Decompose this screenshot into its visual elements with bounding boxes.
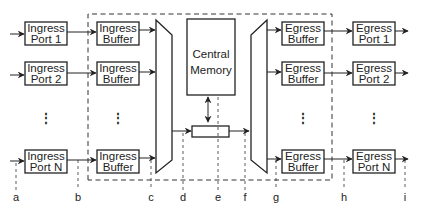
tap-label-g: g [273, 191, 279, 203]
ingress-port-1: Ingress Port 1 [10, 22, 67, 45]
ingress-port-n-label-bottom: Port N [30, 161, 63, 173]
ingress-multiplexer [156, 20, 172, 173]
egress-port-ellipsis: ⋮ [368, 111, 380, 125]
ingress-port-2-label-bottom: Port 2 [31, 73, 62, 85]
tap-label-a: a [13, 191, 20, 203]
egress-port-2-label-bottom: Port 2 [359, 73, 390, 85]
ingress-buffer-1-label-bottom: Buffer [103, 33, 134, 45]
ingress-buffer-2-label-bottom: Buffer [103, 73, 134, 85]
ingress-buffer-1: Ingress Buffer [97, 22, 139, 45]
ingress-port-ellipsis: ⋮ [40, 111, 52, 125]
egress-buffer-ellipsis: ⋮ [297, 111, 309, 125]
shared-memory-switch-diagram: Ingress Port 1 Ingress Port 2 ⋮ Ingress … [0, 0, 421, 215]
central-memory-label-top: Central [192, 48, 229, 60]
egress-port-2: Egress Port 2 [353, 62, 408, 85]
tap-label-i: i [404, 191, 406, 203]
egress-buffer-n: Egress Buffer [282, 150, 324, 173]
egress-buffer-1: Egress Buffer [282, 22, 324, 45]
ingress-port-2: Ingress Port 2 [10, 62, 67, 85]
tap-label-f: f [243, 191, 247, 203]
egress-buffer-2: Egress Buffer [282, 62, 324, 85]
tap-lines [16, 97, 405, 190]
egress-buffer-2-label-bottom: Buffer [288, 73, 319, 85]
ingress-port-1-label-bottom: Port 1 [31, 33, 62, 45]
egress-buffer-1-label-bottom: Buffer [288, 33, 319, 45]
egress-demultiplexer [251, 20, 267, 173]
tap-label-d: d [180, 191, 186, 203]
central-memory-label-bottom: Memory [190, 64, 232, 76]
memory-controller-register [192, 126, 229, 137]
ingress-buffer-ellipsis: ⋮ [112, 111, 124, 125]
ingress-buffer-n-label-bottom: Buffer [103, 161, 134, 173]
tap-label-b: b [75, 191, 81, 203]
tap-label-h: h [341, 191, 347, 203]
ingress-buffer-n: Ingress Buffer [97, 150, 139, 173]
ingress-buffer-2: Ingress Buffer [97, 62, 139, 85]
egress-port-n: Egress Port N [353, 150, 408, 173]
tap-label-e: e [215, 191, 221, 203]
central-memory: Central Memory [187, 19, 235, 95]
egress-buffer-n-label-bottom: Buffer [288, 161, 319, 173]
tap-label-c: c [148, 191, 154, 203]
egress-port-1: Egress Port 1 [353, 22, 408, 45]
egress-port-n-label-bottom: Port N [358, 161, 391, 173]
ingress-port-n: Ingress Port N [10, 150, 67, 173]
egress-port-1-label-bottom: Port 1 [359, 33, 390, 45]
